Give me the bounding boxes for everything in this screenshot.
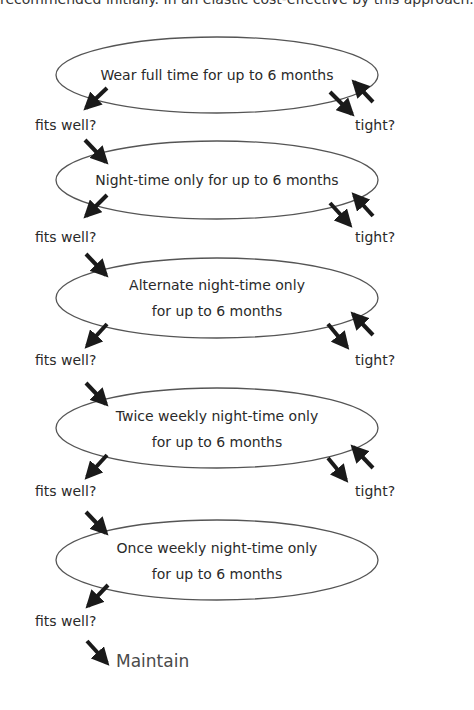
fits-well-label-2: fits well? <box>35 229 96 245</box>
stage-5-line-1: Once weekly night-time only <box>56 535 378 561</box>
fits-well-label-1: fits well? <box>35 117 96 133</box>
stage-5-line-2: for up to 6 months <box>56 561 378 587</box>
tight-return-arrow-icon <box>354 195 373 216</box>
stage-1-line-1: Wear full time for up to 6 months <box>56 62 378 88</box>
stage-5-text: Once weekly night-time only for up to 6 … <box>56 535 378 587</box>
stage-1-text: Wear full time for up to 6 months <box>56 62 378 88</box>
tight-label-3: tight? <box>355 352 395 368</box>
fits-well-out-arrow-icon <box>87 324 107 346</box>
tight-out-arrow-icon <box>330 92 352 114</box>
stage-4-line-2: for up to 6 months <box>56 429 378 455</box>
stage-2-line-1: Night-time only for up to 6 months <box>56 167 378 193</box>
tight-out-arrow-icon <box>328 458 346 480</box>
fits-well-in-arrow-icon <box>86 512 106 533</box>
maintain-arrow-icon <box>87 641 107 663</box>
stage-2-arrows <box>86 195 373 225</box>
tight-label-4: tight? <box>355 483 395 499</box>
fits-well-out-arrow-icon <box>87 455 107 477</box>
stage-4-text: Twice weekly night-time only for up to 6… <box>56 403 378 455</box>
tight-label-1: tight? <box>355 117 395 133</box>
tight-label-2: tight? <box>355 229 395 245</box>
fits-well-in-arrow-icon <box>85 140 106 162</box>
fits-well-out-arrow-icon <box>86 195 107 216</box>
fits-well-in-arrow-icon <box>86 383 106 404</box>
stage-2-text: Night-time only for up to 6 months <box>56 167 378 193</box>
fits-well-out-arrow-icon <box>88 585 108 606</box>
tight-out-arrow-icon <box>330 203 350 225</box>
tight-out-arrow-icon <box>328 324 347 347</box>
stage-3-text: Alternate night-time only for up to 6 mo… <box>56 272 378 324</box>
fits-well-label-3: fits well? <box>35 352 96 368</box>
fits-well-label-5: fits well? <box>35 613 96 629</box>
stage-3-line-2: for up to 6 months <box>56 298 378 324</box>
fits-well-label-4: fits well? <box>35 483 96 499</box>
maintain-outcome: Maintain <box>116 651 189 671</box>
stage-3-line-1: Alternate night-time only <box>56 272 378 298</box>
stage-4-line-1: Twice weekly night-time only <box>56 403 378 429</box>
